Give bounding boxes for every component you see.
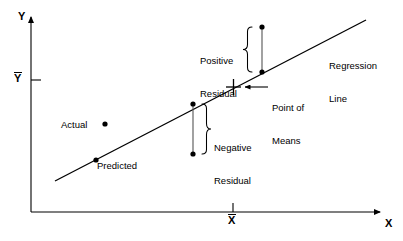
positive-residual-brace xyxy=(243,27,252,72)
x-mean-label-text: X xyxy=(228,215,235,226)
y-mean-label-text: Y xyxy=(14,73,21,84)
regression-line-label-line1: Regression xyxy=(329,60,377,71)
point-of-means-label-line2: Means xyxy=(272,135,304,146)
positive-residual-label-line2: Residual xyxy=(200,88,237,99)
x-mean-label: X xyxy=(228,215,235,226)
y-axis-label: Y xyxy=(18,11,25,22)
negative-residual-observed-point xyxy=(190,151,195,156)
negative-residual-label: Negative Residual xyxy=(214,120,252,208)
positive-residual-fitted-point xyxy=(259,69,264,74)
predicted-label: Predicted xyxy=(97,160,137,171)
positive-residual-observed-point xyxy=(259,24,264,29)
negative-residual-fitted-point xyxy=(190,101,195,106)
actual-label: Actual xyxy=(61,119,87,130)
regression-residual-diagram: Y X Y X Positive Residual Negative Resid… xyxy=(0,0,403,241)
actual-point xyxy=(102,121,107,126)
regression-line-label-line2: Line xyxy=(329,93,377,104)
negative-residual-label-line1: Negative xyxy=(214,142,252,153)
x-axis-label: X xyxy=(385,218,392,229)
point-of-means-label-line1: Point of xyxy=(272,102,304,113)
negative-residual-label-line2: Residual xyxy=(214,175,252,186)
positive-residual-label: Positive Residual xyxy=(200,33,237,121)
point-of-means-label: Point of Means xyxy=(272,80,304,168)
regression-line-label: Regression Line xyxy=(329,38,377,126)
y-mean-label: Y xyxy=(14,73,21,84)
positive-residual-label-line1: Positive xyxy=(200,55,237,66)
